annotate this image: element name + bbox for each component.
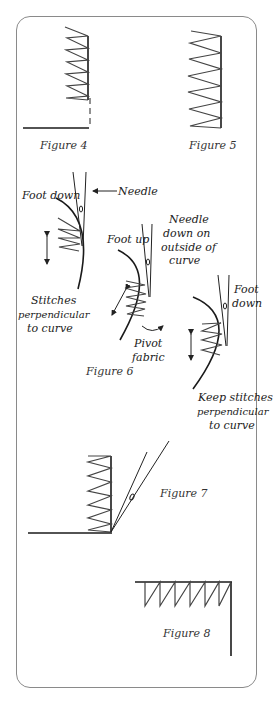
- label-stitches-1: Stitches: [31, 294, 77, 307]
- label-foot-down-right-1: Foot: [233, 283, 259, 296]
- label-needle-down-2: down on: [163, 227, 210, 240]
- figure-6-left: Foot down Needle Stitches perpendicular …: [18, 172, 158, 335]
- label-pivot-2: fabric: [131, 351, 165, 364]
- label-stitches-2: perpendicular: [18, 309, 91, 320]
- figure-4: Figure 4: [23, 27, 90, 152]
- label-needle-down-1: Needle: [168, 213, 209, 226]
- label-keep-stitches-1: Keep stitches: [197, 391, 273, 404]
- label-needle: Needle: [117, 185, 158, 198]
- label-needle-down-3: outside of: [161, 241, 218, 254]
- figure-5-caption: Figure 5: [188, 139, 237, 152]
- figure-7-caption: Figure 7: [159, 487, 208, 500]
- figure-7: Figure 7: [28, 441, 208, 533]
- figure-4-caption: Figure 4: [39, 139, 88, 152]
- label-foot-down-right-2: down: [232, 297, 262, 310]
- label-foot-up: Foot up: [106, 233, 149, 246]
- label-foot-down-left: Foot down: [21, 189, 80, 202]
- label-pivot-1: Pivot: [133, 337, 163, 350]
- figure-5: Figure 5: [188, 31, 237, 152]
- label-stitches-3: to curve: [27, 322, 73, 335]
- label-keep-stitches-2: perpendicular: [197, 406, 270, 417]
- sewing-diagram: Figure 4 Figure 5 Foot down Needle Stitc…: [0, 0, 274, 707]
- figure-6-middle: Foot up Needle down on outside of curve …: [85, 213, 218, 378]
- figure-8: Figure 8: [135, 582, 232, 656]
- label-needle-down-4: curve: [169, 254, 201, 267]
- figure-8-caption: Figure 8: [162, 627, 211, 640]
- figure-6-right: Foot down Keep stitches perpendicular to…: [191, 275, 273, 432]
- figure-6-caption: Figure 6: [85, 365, 134, 378]
- label-keep-stitches-3: to curve: [209, 419, 255, 432]
